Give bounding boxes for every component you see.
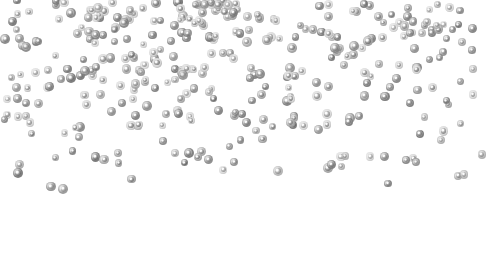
confetti-dot [386,83,394,91]
confetti-dot [245,26,253,34]
confetti-dot [108,0,117,7]
confetti-dot [91,39,99,47]
confetti-dot [360,91,370,101]
confetti-dot [66,8,76,18]
confetti-dot [334,33,342,41]
confetti-dot [21,42,31,52]
confetti-dot [3,95,11,103]
confetti-dot [323,120,332,129]
confetti-dot [324,29,333,38]
confetti-dot [402,156,410,164]
confetti-dot [80,66,90,76]
confetti-dot [380,92,390,102]
confetti-dot [404,4,412,12]
confetti-dot [309,25,317,33]
confetti-dot [342,152,349,159]
confetti-dot [292,33,299,40]
confetti-dot [63,65,72,74]
confetti-dot [159,122,166,129]
confetti-dot [445,3,454,12]
confetti-dot [416,130,425,139]
confetti-dot [0,34,10,44]
confetti-dot [469,90,478,99]
confetti-dot [8,74,16,82]
confetti-dot [198,8,207,17]
confetti-dot [142,101,151,110]
confetti-dot [192,1,199,8]
confetti-dot [426,6,433,13]
confetti-dot [230,158,239,167]
confetti-dot [252,127,260,135]
confetti-dot [443,35,451,43]
confetti-dot [272,16,281,25]
confetti-dot [45,82,54,91]
confetti-dot [188,117,196,125]
confetti-dot [327,160,336,169]
confetti-dot [8,17,17,26]
confetti-dot [259,115,268,124]
confetti-dot [437,136,445,144]
confetti-dot [1,116,8,123]
confetti-dot [176,4,185,13]
confetti-dot [212,32,220,40]
confetti-dot [229,54,238,63]
confetti-dot [434,1,441,8]
confetti-dot [171,76,178,83]
confetti-dot [57,75,65,83]
confetti-dot [345,118,353,126]
confetti-dot [395,61,403,69]
confetti-dot [242,37,252,47]
confetti-dot [433,22,440,29]
confetti-dot [285,84,292,91]
confetti-dot [238,110,246,118]
confetti-dot [340,61,348,69]
confetti-dot [428,83,437,92]
confetti-dot [237,136,245,144]
confetti-dot [13,0,21,4]
confetti-dot [324,0,333,9]
confetti-dot [131,111,140,120]
confetti-dot [135,121,143,129]
confetti-dot [236,29,244,37]
confetti-dot [194,153,202,161]
confetti-dot [169,52,179,62]
confetti-dot [423,18,431,26]
confetti-dot [91,30,101,40]
confetti-dot [358,44,366,52]
confetti-dot [406,99,414,107]
confetti-dot [455,21,462,28]
confetti-dot [257,90,266,99]
confetti-dot [139,4,148,13]
confetti-dot [255,69,265,79]
confetti-dot [410,44,419,53]
confetti-dot [34,99,43,108]
confetti-dot [258,135,266,143]
confetti-dot [262,35,271,44]
confetti-dot [69,147,76,154]
confetti-scene [0,0,489,275]
confetti-dot [460,170,469,179]
confetti-dot [392,74,401,83]
confetti-dot [412,158,419,165]
confetti-dot [375,60,383,68]
confetti-dot [413,86,422,95]
confetti-dot [226,143,233,150]
confetti-dot [287,95,295,103]
confetti-dot [312,78,322,88]
confetti-dot [66,73,76,83]
confetti-dot [119,18,129,28]
confetti-dot [468,24,478,34]
confetti-dot [149,48,158,57]
confetti-dot [35,38,43,46]
confetti-dot [115,159,122,166]
confetti-dot [406,29,414,37]
confetti-dot [190,84,199,93]
confetti-dot [315,2,324,11]
confetti-dot [14,10,22,18]
confetti-dot [13,26,21,34]
confetti-dot [178,70,188,80]
confetti-dot [75,133,83,141]
confetti-dot [412,65,421,74]
confetti-dot [439,126,449,136]
confetti-dot [248,97,256,105]
